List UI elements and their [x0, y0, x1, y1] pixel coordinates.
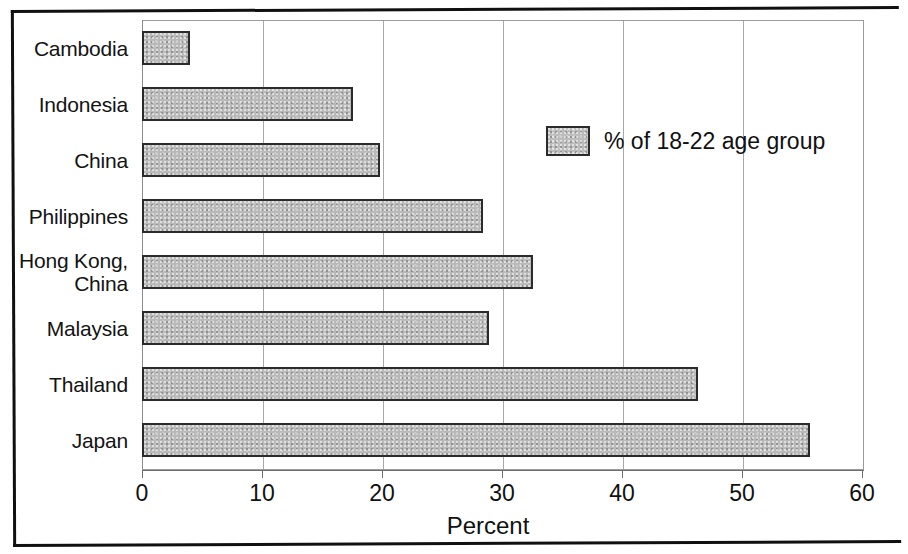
y-label-japan: Japan	[0, 429, 128, 452]
bar-japan[interactable]	[142, 423, 810, 457]
y-label-line: China	[74, 272, 128, 295]
y-label-line: Hong Kong,	[19, 249, 128, 272]
y-label-cambodia: Cambodia	[0, 37, 128, 60]
bar-philippines[interactable]	[142, 199, 483, 233]
bar-chart: Cambodia Indonesia China Philippines Hon…	[0, 0, 908, 554]
x-tick-label-10: 10	[232, 480, 292, 506]
bars-layer	[142, 20, 864, 470]
x-tick-60	[862, 470, 863, 478]
x-tick-label-50: 50	[712, 480, 772, 506]
legend-swatch-icon	[546, 126, 590, 156]
bar-thailand[interactable]	[142, 367, 698, 401]
y-label-indonesia: Indonesia	[0, 93, 128, 116]
y-label-line: Cambodia	[34, 37, 128, 60]
y-label-line: Malaysia	[47, 317, 128, 340]
y-label-line: China	[74, 149, 128, 172]
bar-china[interactable]	[142, 143, 380, 177]
x-tick-50	[742, 470, 743, 478]
y-label-line: Thailand	[49, 373, 128, 396]
figure-root: Cambodia Indonesia China Philippines Hon…	[0, 0, 908, 554]
legend: % of 18-22 age group	[546, 126, 825, 156]
x-tick-label-40: 40	[592, 480, 652, 506]
x-tick-10	[262, 470, 263, 478]
bar-hong-kong-china[interactable]	[142, 255, 533, 289]
x-tick-40	[622, 470, 623, 478]
x-tick-30	[502, 470, 503, 478]
x-tick-0	[142, 470, 143, 478]
x-axis-title: Percent	[0, 512, 908, 540]
x-axis-line	[142, 470, 864, 471]
bar-cambodia[interactable]	[142, 31, 190, 65]
x-tick-label-30: 30	[472, 480, 532, 506]
x-tick-20	[382, 470, 383, 478]
x-tick-label-20: 20	[352, 480, 412, 506]
y-label-philippines: Philippines	[0, 205, 128, 228]
y-label-line: Japan	[72, 429, 128, 452]
y-axis-labels: Cambodia Indonesia China Philippines Hon…	[0, 20, 136, 470]
bar-indonesia[interactable]	[142, 87, 353, 121]
y-label-malaysia: Malaysia	[0, 317, 128, 340]
x-tick-label-60: 60	[832, 480, 892, 506]
legend-label: % of 18-22 age group	[604, 128, 825, 154]
bar-malaysia[interactable]	[142, 311, 489, 345]
x-tick-label-0: 0	[112, 480, 172, 506]
y-label-line: Indonesia	[39, 93, 128, 116]
y-label-thailand: Thailand	[0, 373, 128, 396]
y-label-china: China	[0, 149, 128, 172]
y-label-line: Philippines	[29, 205, 128, 228]
y-label-hong-kong-china: Hong Kong, China	[0, 249, 128, 295]
